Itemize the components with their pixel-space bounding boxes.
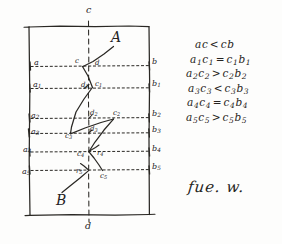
signature-text: fue. w. [187, 178, 245, 196]
left-label-a2-sub: 2 [36, 114, 40, 120]
eq5-rhs-b: b [234, 111, 241, 123]
vertex-label-c3: c3 [65, 133, 72, 140]
vertex-label-c: c [75, 58, 79, 65]
endpoint-tick-b0 [149, 62, 150, 70]
left-label-a5-sub: 5 [27, 170, 31, 176]
eq4-rhs-b: b [235, 96, 242, 108]
eq4-lhs-a: a [187, 96, 194, 108]
eq2-lhs-a: a [186, 67, 193, 79]
right-label-b2-sub: 2 [157, 112, 161, 118]
vertex-label-d1: d1 [81, 82, 89, 89]
eq5-lhs-a: a [186, 111, 193, 123]
frame-label-c-top: c [86, 5, 91, 15]
vertex-label-c3-sub: 3 [69, 134, 72, 140]
eq5-operator: > [210, 111, 222, 123]
left-label-a0: a [34, 59, 39, 68]
vertex-label-c1: c1 [95, 81, 102, 88]
left-label-a4: a4 [23, 146, 31, 155]
right-label-b1: b1 [152, 80, 161, 89]
eq2-rhs-b: b [234, 67, 241, 79]
eq4-operator: = [211, 96, 223, 108]
eq5-rhs-b-sub: 5 [242, 115, 247, 124]
vertex-label-d3-sub: 3 [94, 127, 97, 133]
vertex-label-c-base: c [75, 57, 79, 65]
eq2-operator: > [210, 67, 222, 79]
chord-line-ab-1 [31, 88, 149, 89]
endpoint-tick-b3 [149, 129, 150, 137]
vertex-label-c4-sub: 4 [81, 152, 84, 158]
eq3-rhs-b-sub: 3 [244, 86, 249, 95]
eq0-rhs-b: b [227, 38, 234, 50]
eq0-lhs-a: a [195, 38, 202, 50]
chord-line-ab-5 [31, 170, 149, 171]
right-label-b0-base: b [152, 57, 157, 66]
right-label-b4: b4 [152, 145, 161, 154]
endpoint-tick-a0 [30, 62, 31, 70]
eq3-lhs-a: a [188, 82, 195, 94]
sketch-page: c d A B a a1 a2 a3 a4 a5 b b1 b2 b3 b4 b… [0, 0, 282, 244]
left-label-a3-sub: 3 [36, 130, 40, 136]
vertex-label-c5-sub: 5 [104, 174, 107, 180]
equation-list: ac<cb a1c1=c1b1 a2c2>c2b2 a3c3<c3b3 a4c4… [186, 38, 282, 125]
vertex-label-d: d [95, 60, 99, 67]
left-label-a0-base: a [34, 58, 39, 67]
region-label-B: B [56, 193, 66, 207]
endpoint-tick-b5 [149, 166, 150, 174]
eq3-rhs-b: b [236, 82, 243, 94]
right-label-b5-sub: 5 [157, 165, 161, 171]
right-label-b4-sub: 4 [157, 147, 161, 153]
vertex-label-d3: d3 [90, 126, 98, 133]
right-label-b5: b5 [152, 163, 161, 172]
vertex-label-c2-sub: 2 [117, 111, 120, 117]
left-label-a1: a1 [33, 81, 41, 90]
equation-row-0: ac<cb [195, 38, 282, 53]
vertex-label-r4: r4 [97, 150, 104, 157]
vertex-label-d1-sub: 1 [85, 83, 88, 89]
eq1-rhs-b: b [238, 53, 245, 65]
vertex-label-c4: c4 [77, 151, 84, 158]
equation-row-2: a2c2>c2b2 [186, 67, 282, 82]
vertex-label-d2-sub: 2 [94, 111, 97, 117]
eq1-rhs-b-sub: 1 [246, 57, 251, 66]
right-label-b0: b [152, 58, 157, 67]
endpoint-tick-b4 [149, 148, 150, 156]
left-label-a3: a3 [31, 128, 39, 137]
eq2-rhs-b-sub: 2 [242, 72, 247, 81]
left-label-a1-sub: 1 [38, 83, 42, 89]
chord-line-ab-0 [31, 66, 149, 67]
left-label-a4-sub: 4 [28, 148, 32, 154]
equation-row-1: a1c1=c1b1 [190, 53, 282, 68]
endpoint-tick-a2 [29, 114, 30, 122]
frame-rect-bottom [30, 215, 149, 216]
endpoint-tick-b1 [149, 84, 150, 92]
right-label-b2: b2 [152, 110, 161, 119]
eq3-operator: < [212, 82, 224, 94]
eq1-lhs-a: a [190, 53, 197, 65]
equation-row-4: a4c4=c4b4 [187, 96, 282, 111]
vertex-label-r5: r5 [76, 168, 83, 175]
right-label-b3: b3 [152, 126, 161, 135]
equation-row-5: a5c5>c5b5 [186, 111, 282, 126]
right-label-b3-sub: 3 [157, 128, 161, 134]
eq1-operator: = [214, 53, 226, 65]
left-label-a5: a5 [22, 168, 30, 177]
vertex-label-c5: c5 [100, 173, 107, 180]
right-label-b1-sub: 1 [157, 82, 161, 88]
vertex-label-c2: c2 [113, 110, 120, 117]
eq4-rhs-b-sub: 4 [243, 101, 248, 110]
vertex-label-c1-sub: 1 [99, 82, 102, 88]
endpoint-tick-b2 [149, 114, 150, 122]
eq0-operator: < [208, 38, 220, 50]
vertex-label-d2: d2 [90, 110, 98, 117]
region-label-A: A [111, 30, 121, 44]
vertex-label-d-base: d [95, 59, 99, 67]
vertex-label-r4-sub: 4 [100, 151, 103, 157]
endpoint-tick-a1 [30, 84, 31, 92]
frame-label-d-bottom: d [85, 221, 91, 231]
left-label-a2: a2 [31, 112, 39, 121]
vertex-label-r5-sub: 5 [79, 169, 82, 175]
endpoint-tick-a3 [29, 129, 30, 137]
equation-row-3: a3c3<c3b3 [188, 82, 282, 97]
median-line-cd [88, 21, 89, 222]
